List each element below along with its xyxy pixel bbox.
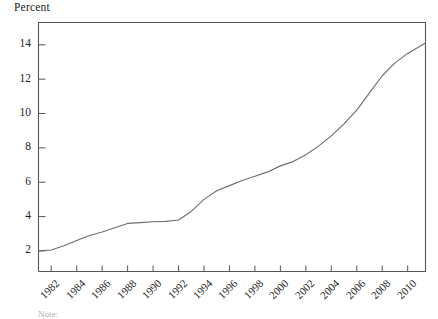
x-axis-tick-label: 1992 [158,277,189,308]
x-axis-tick-label: 1986 [82,277,113,308]
x-axis-tick-label: 2008 [362,277,393,308]
x-axis-tick-label: 1988 [107,277,138,308]
x-axis-tick-label: 1994 [183,277,214,308]
footnote-text: Note: [38,309,434,319]
x-axis-tick-label: 2002 [285,277,316,308]
x-axis-tick-label: 1990 [132,277,163,308]
x-axis-tick-label: 1998 [234,277,265,308]
x-axis-tick-label: 1982 [31,277,62,308]
x-axis-tick-label: 2004 [311,277,342,308]
x-axis-tick-labels: 1982198419861988199019921994199619982000… [0,0,438,319]
x-axis-tick-label: 1996 [209,277,240,308]
chart-screenshot: Percent 2468101214 198219841986198819901… [0,0,438,319]
x-axis-tick-label: 1984 [56,277,87,308]
x-axis-tick-label: 2006 [336,277,367,308]
x-axis-tick-label: 2010 [387,277,418,308]
x-axis-tick-label: 2000 [260,277,291,308]
